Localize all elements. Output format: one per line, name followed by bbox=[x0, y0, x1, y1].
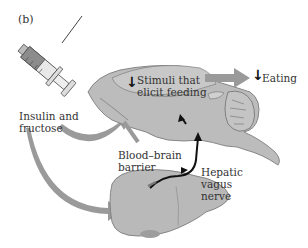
nerve-label: Hepatic vagus nerve bbox=[201, 166, 243, 202]
stimuli-label: Stimuli that elicit feeding bbox=[137, 74, 207, 98]
stimuli-decrease-icon: ↓ bbox=[126, 76, 138, 88]
panel-label: (b) bbox=[18, 14, 34, 26]
arrow-to-liver bbox=[26, 128, 122, 221]
injection-label: Insulin and fructose bbox=[19, 110, 79, 134]
diagram-stage: (b) Insulin and fructose ↓ Stimuli that … bbox=[0, 0, 308, 248]
syringe-icon bbox=[13, 16, 82, 98]
eating-label: Eating bbox=[262, 72, 297, 84]
barrier-label: Blood–brain barrier bbox=[118, 149, 182, 173]
